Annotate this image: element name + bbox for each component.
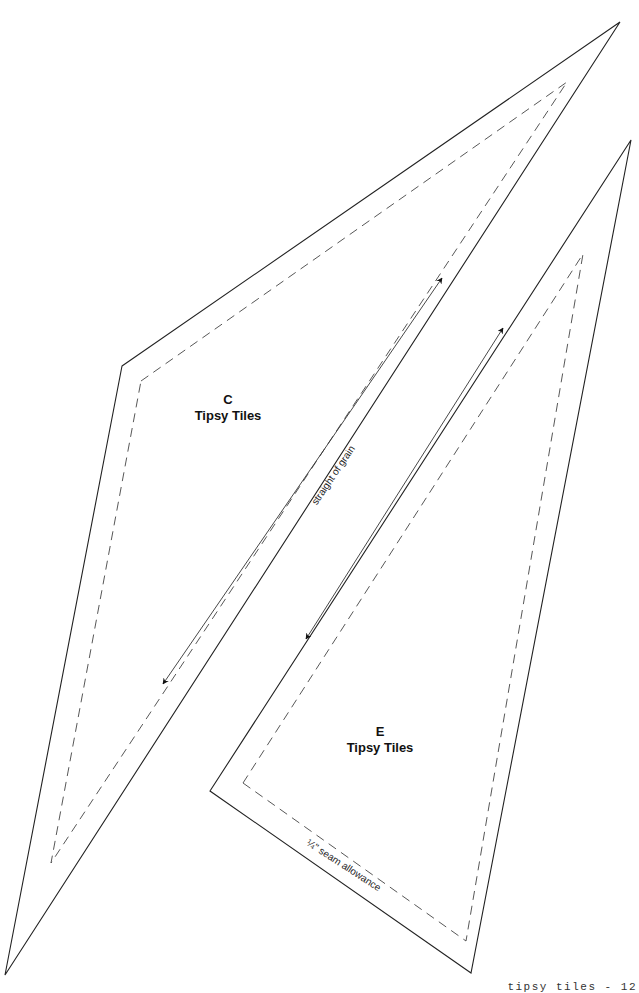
grain-label: straight of grain (309, 443, 357, 506)
piece-e-grain-arrow (306, 328, 503, 639)
piece-c: C Tipsy Tiles straight of grain (5, 22, 620, 975)
piece-e-name: Tipsy Tiles (347, 740, 414, 755)
pattern-canvas: C Tipsy Tiles straight of grain E Tipsy … (0, 0, 639, 993)
piece-c-grain-arrow (163, 278, 442, 684)
piece-e: E Tipsy Tiles ¼" seam allowance (210, 140, 631, 973)
piece-e-letter: E (376, 724, 385, 739)
page-footer-label: tipsy tiles - 12 (507, 981, 637, 993)
piece-e-seam-line (243, 254, 583, 941)
piece-c-name: Tipsy Tiles (195, 408, 262, 423)
piece-e-cutting-line (210, 140, 631, 973)
piece-c-seam-line (51, 82, 567, 863)
piece-c-letter: C (223, 392, 233, 407)
